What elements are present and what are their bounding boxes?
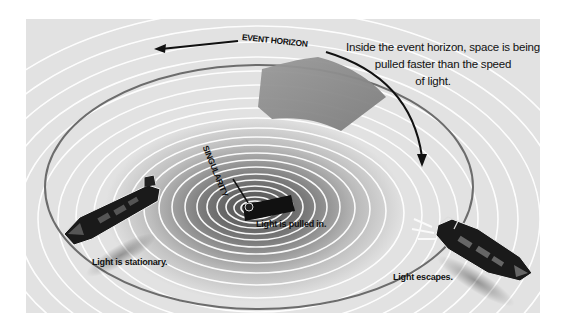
caption-light-pulled-in: Light is pulled in. (256, 219, 326, 229)
caption-light-escapes: Light escapes. (393, 272, 453, 282)
caption-light-stationary: Light is stationary. (92, 257, 167, 267)
note-line-3: of light. (338, 73, 540, 90)
note-line-1: Inside the event horizon, space is being (338, 39, 540, 56)
whirlpool-diagram: EVENT HORIZON SINGULARITY Inside the eve… (26, 19, 540, 313)
event-horizon-note: Inside the event horizon, space is being… (338, 39, 540, 90)
note-line-2: pulled faster than the speed (338, 56, 540, 73)
